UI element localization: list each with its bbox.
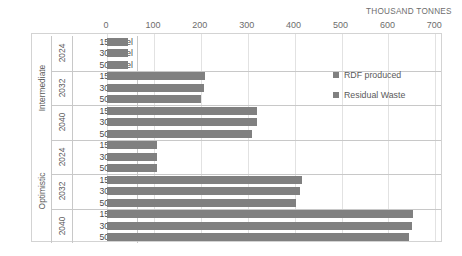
x-tick-label-700: 700 <box>427 20 442 30</box>
bar <box>107 141 157 149</box>
legend-label: RDF produced <box>344 70 401 80</box>
x-tick-label-100: 100 <box>145 20 160 30</box>
x-tick-label-400: 400 <box>286 20 301 30</box>
bar <box>107 153 157 161</box>
legend-item[interactable]: RDF produced <box>333 70 405 80</box>
bar <box>107 72 205 80</box>
bar <box>107 164 157 172</box>
x-tick-label-0: 0 <box>103 20 108 30</box>
chart-legend: RDF producedResidual Waste <box>333 70 405 110</box>
bar <box>107 107 257 115</box>
x-tick-label-300: 300 <box>239 20 254 30</box>
bar <box>107 95 201 103</box>
bars-layer <box>32 34 441 241</box>
legend-label: Residual Waste <box>344 90 405 100</box>
bar <box>107 233 409 241</box>
bar <box>107 130 252 138</box>
bar <box>107 38 128 46</box>
bar <box>107 84 204 92</box>
bar <box>107 222 412 230</box>
bar <box>107 210 413 218</box>
x-tick-label-500: 500 <box>333 20 348 30</box>
bar <box>107 118 257 126</box>
bar <box>107 176 302 184</box>
legend-swatch-icon <box>333 72 339 78</box>
bar <box>107 61 128 69</box>
x-axis-tick-labels: 0100200300400500600700 <box>0 20 462 34</box>
axis-units-caption: THOUSAND TONNES <box>366 7 452 16</box>
plot-area: Intermediate202415% fuel30% fuel50% fuel… <box>31 33 442 242</box>
legend-swatch-icon <box>333 92 339 98</box>
chart-container: THOUSAND TONNES 0100200300400500600700 I… <box>0 0 462 256</box>
bar <box>107 49 128 57</box>
bar <box>107 199 296 207</box>
x-tick-label-600: 600 <box>380 20 395 30</box>
legend-item[interactable]: Residual Waste <box>333 90 405 100</box>
x-tick-label-200: 200 <box>192 20 207 30</box>
bar <box>107 187 300 195</box>
